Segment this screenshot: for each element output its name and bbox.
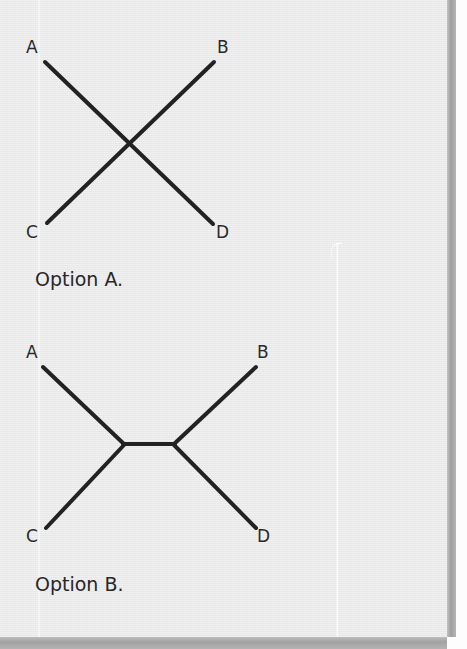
segment-b-to-right-vertex [174,367,256,444]
segment-c-to-left-vertex [46,445,124,528]
page-crease-right [336,243,339,643]
option-a-caption: Option A. [35,270,123,289]
page-edge-shadow-bottom [0,637,456,649]
paper-texture [0,0,467,649]
option-a-node-label-c: C [26,224,38,241]
segment-a-to-left-vertex [43,367,124,444]
option-b-node-label-b: B [257,344,269,361]
segment-d-to-right-vertex [174,445,256,528]
page-edge-margin-right [456,0,467,649]
option-a-svg [0,0,467,649]
option-b-node-label-d: D [257,528,270,545]
option-a-diagram [0,0,467,649]
option-b-diagram [0,0,467,649]
scanned-page: A B C D Option A. A B C D Option B. [0,0,467,649]
option-a-node-label-b: B [217,39,229,56]
page-edge-corner [447,637,467,649]
segment-c-to-b [47,62,214,223]
page-edge-shadow-right [447,0,456,649]
option-a-node-label-a: A [26,39,38,56]
segment-a-to-d [45,62,213,224]
page-crease-left [38,0,40,640]
option-b-caption: Option B. [35,575,124,594]
option-b-svg [0,0,467,649]
option-b-node-label-a: A [26,344,38,361]
option-a-node-label-d: D [216,224,229,241]
option-b-node-label-c: C [26,528,38,545]
page-crease-right-hook [331,243,342,258]
